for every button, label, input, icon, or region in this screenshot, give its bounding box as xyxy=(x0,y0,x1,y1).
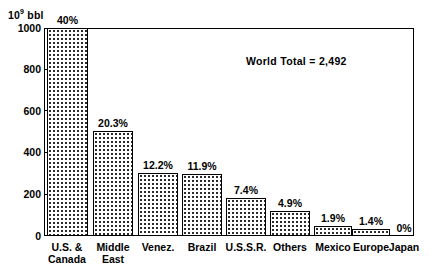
bar xyxy=(47,28,88,236)
bar xyxy=(93,131,133,236)
bar-value-label: 20.3% xyxy=(83,118,143,129)
bar xyxy=(182,174,222,236)
bars-layer: 40%20.3%12.2%11.9%7.4%4.9%1.9%1.4%0% xyxy=(0,0,443,277)
bar-chart: 109 bbl 02004006008001000 40%20.3%12.2%1… xyxy=(0,0,443,277)
bar-value-label: 11.9% xyxy=(172,161,232,172)
bar xyxy=(314,226,352,236)
bar xyxy=(138,173,178,236)
bar-value-label: 4.9% xyxy=(260,198,320,209)
world-total-annotation: World Total = 2,492 xyxy=(246,55,347,67)
bar-value-label: 7.4% xyxy=(216,185,276,196)
bar-value-label: 0% xyxy=(374,223,434,234)
bar-value-label: 40% xyxy=(38,15,98,26)
x-axis-category-label: Japan xyxy=(369,241,439,253)
